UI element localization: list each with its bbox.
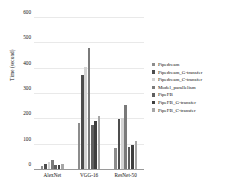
legend-item: PipeFB_C-transfer (152, 108, 202, 113)
legend-label: Model_parallelism (158, 85, 196, 90)
legend-swatch-icon (152, 86, 155, 89)
legend-item: PipeFB (152, 92, 202, 97)
legend-swatch-icon (152, 108, 155, 111)
y-tick-label: 0 (28, 161, 31, 167)
legend-item: Pipedream (152, 62, 202, 67)
bar (88, 48, 91, 169)
bar (51, 160, 54, 169)
bar (114, 148, 117, 169)
bar (41, 166, 44, 169)
bar (121, 118, 124, 169)
legend-label: PipeFB_G-transfer (158, 100, 196, 105)
legend-item: PipeFB_G-transfer (152, 100, 202, 105)
y-tick-label: 300 (23, 85, 31, 91)
bar (135, 141, 138, 169)
y-tick-label: 200 (23, 110, 31, 116)
bar (131, 145, 134, 169)
bar (44, 164, 47, 169)
bar-group (107, 18, 144, 169)
bar (61, 164, 64, 169)
legend-label: Pipedream_C-transfer (158, 77, 202, 82)
bar-group (71, 18, 108, 169)
legend-label: Pipedream_G-transfer (158, 70, 202, 75)
y-tick-label: 100 (23, 136, 31, 142)
bar (81, 75, 84, 169)
bar (94, 121, 97, 169)
legend-item: Pipedream_C-transfer (152, 77, 202, 82)
bar-group (34, 18, 71, 169)
legend-swatch-icon (152, 78, 155, 81)
y-tick-label: 400 (23, 60, 31, 66)
bar (128, 147, 131, 169)
legend-swatch-icon (152, 63, 155, 66)
legend-item: Model_parallelism (152, 85, 202, 90)
chart-legend: PipedreamPipedream_G-transferPipedream_C… (152, 62, 202, 113)
x-axis-label: ResNet-50 (107, 172, 144, 178)
bar-groups (34, 18, 144, 169)
legend-label: Pipedream (158, 62, 179, 67)
y-axis-title: Time (second) (9, 35, 15, 95)
bar (54, 165, 57, 169)
x-axis-line (34, 169, 144, 170)
x-axis-label: AlexNet (34, 172, 71, 178)
bar (124, 105, 127, 169)
legend-item: Pipedream_G-transfer (152, 70, 202, 75)
legend-label: PipeFB (158, 92, 173, 97)
bar (98, 116, 101, 169)
y-tick-label: 500 (23, 34, 31, 40)
bar (58, 165, 61, 169)
bar (84, 67, 87, 169)
x-axis-labels: AlexNetVGG-16ResNet-50 (34, 172, 144, 178)
x-axis-label: VGG-16 (71, 172, 108, 178)
legend-swatch-icon (152, 70, 155, 73)
bar (48, 162, 51, 169)
bar (91, 125, 94, 169)
plot-area: 0100200300400500600 (34, 18, 144, 170)
bar-chart: Time (second) 0100200300400500600 AlexNe… (0, 0, 227, 193)
legend-swatch-icon (152, 101, 155, 104)
y-tick-label: 600 (23, 9, 31, 15)
bar (78, 123, 81, 169)
legend-swatch-icon (152, 93, 155, 96)
legend-label: PipeFB_C-transfer (158, 108, 196, 113)
bar (118, 119, 121, 169)
